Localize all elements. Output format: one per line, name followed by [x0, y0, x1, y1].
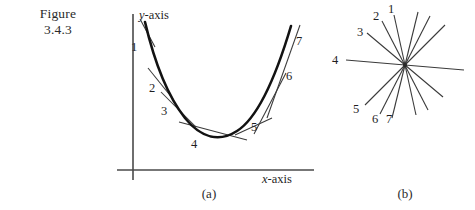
figure-number-line2: 3.4.3 — [10, 22, 106, 38]
parabola-curve — [145, 22, 291, 137]
tangent-label-1: 1 — [131, 40, 137, 54]
y-axis-label: y-axis — [137, 8, 169, 22]
x-axis-label-rest: -axis — [268, 172, 292, 186]
tangent-label-4: 4 — [191, 137, 198, 151]
figure-number-line1: Figure — [40, 6, 76, 21]
fan-label-1: 1 — [388, 2, 394, 16]
fan-label-6: 6 — [372, 112, 378, 126]
panel-a-parabola: y-axis x-axis 1 2 3 4 5 — [104, 0, 319, 210]
y-axis-label-rest: -axis — [145, 8, 169, 22]
fan-label-7: 7 — [386, 112, 392, 126]
x-axis-label: x-axis — [261, 172, 292, 186]
panel-a-caption: (a) — [189, 186, 229, 202]
tangent-label-7: 7 — [296, 34, 302, 48]
fan-center-point — [403, 63, 407, 67]
tangent-label-3: 3 — [161, 104, 167, 118]
tangent-label-6: 6 — [286, 69, 292, 83]
fan-label-4: 4 — [332, 53, 339, 67]
panel-b-caption: (b) — [385, 186, 425, 202]
tangent-label-2: 2 — [149, 81, 155, 95]
fan-label-3: 3 — [357, 25, 363, 39]
figure-page: Figure 3.4.3 y-axis x-axis — [0, 0, 475, 210]
figure-number-caption: Figure 3.4.3 — [10, 6, 106, 38]
fan-label-5: 5 — [353, 102, 359, 116]
panel-b-tangent-fan: 1 2 3 4 5 6 7 — [322, 0, 475, 210]
fan-label-2: 2 — [373, 9, 379, 23]
tangent-label-5: 5 — [251, 120, 257, 134]
